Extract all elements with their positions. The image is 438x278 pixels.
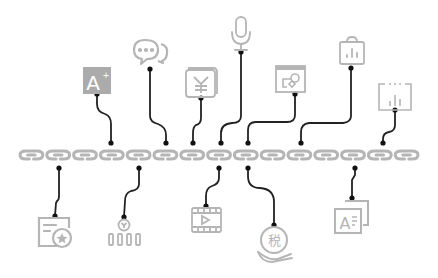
connector-video	[206, 168, 219, 206]
chain-link	[288, 151, 311, 159]
svg-text:A: A	[86, 71, 100, 95]
svg-text:税: 税	[268, 233, 281, 248]
connector-calendar	[55, 168, 59, 216]
clipboard-chart-icon	[340, 37, 364, 64]
chain	[20, 151, 418, 159]
diagram-canvas: A +	[0, 0, 438, 278]
connector-chat	[150, 69, 166, 143]
chain-link	[234, 151, 257, 159]
font-size-increase-icon: A +	[83, 67, 111, 95]
text-document-icon: A	[335, 201, 368, 233]
connector-coin-bars	[124, 168, 139, 217]
chain-link	[395, 151, 418, 159]
video-play-icon	[192, 208, 221, 232]
svg-text:+: +	[102, 70, 110, 80]
chain-link	[100, 151, 123, 159]
yen-document-icon	[186, 68, 217, 97]
microphone-icon	[232, 17, 250, 50]
connector-bar-frame	[383, 110, 395, 143]
calendar-star-icon	[39, 218, 71, 247]
connector-yen	[193, 98, 201, 143]
connector-tax	[248, 168, 274, 225]
connector-font-size	[97, 94, 111, 143]
chain-link	[127, 151, 150, 159]
chain-link	[342, 151, 365, 159]
connector-image-window	[248, 94, 295, 143]
chain-link	[368, 151, 391, 159]
chain-link	[74, 151, 97, 159]
chain-link	[20, 151, 43, 159]
chain-diagram: A +	[0, 0, 438, 278]
connector-text-doc	[352, 168, 355, 198]
chain-link	[261, 151, 284, 159]
svg-text:A: A	[340, 214, 351, 233]
image-window-icon	[276, 66, 305, 92]
coin-bars-icon	[109, 220, 140, 246]
chain-link	[154, 151, 177, 159]
connector-clipboard	[301, 68, 351, 143]
chain-link	[315, 151, 338, 159]
connector-microphone	[221, 52, 241, 143]
chain-link	[47, 151, 70, 159]
chain-link	[181, 151, 204, 159]
bar-chart-frame-icon	[379, 84, 411, 110]
chain-link	[208, 151, 231, 159]
tax-hand-icon: 税	[258, 227, 292, 262]
chat-bubbles-icon	[134, 40, 167, 64]
